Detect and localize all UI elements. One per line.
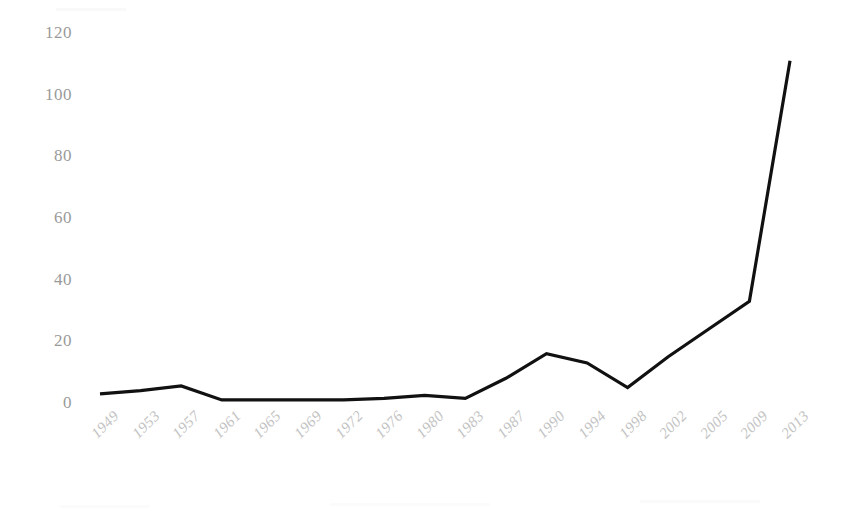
data-series-line xyxy=(100,61,790,400)
line-chart: 120100806040200 194919531957196119651969… xyxy=(0,0,852,520)
plot-area xyxy=(0,0,852,520)
